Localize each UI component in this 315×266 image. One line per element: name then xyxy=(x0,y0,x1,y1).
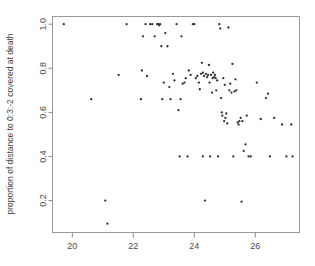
data-point xyxy=(179,155,181,157)
data-point xyxy=(244,143,246,145)
data-point xyxy=(212,72,214,74)
plot-svg: 0.20.40.60.81.0 20222426 proportion of d… xyxy=(0,0,315,266)
data-point xyxy=(185,77,187,79)
data-point xyxy=(231,63,233,65)
data-point xyxy=(196,75,198,77)
data-point xyxy=(140,98,142,100)
data-point xyxy=(281,123,283,125)
data-point xyxy=(154,35,156,37)
data-point xyxy=(222,77,224,79)
plot-frame xyxy=(53,17,300,233)
data-points-layer xyxy=(63,23,294,225)
data-point xyxy=(243,150,245,152)
data-point xyxy=(199,88,201,90)
data-point xyxy=(211,91,213,93)
data-point xyxy=(169,98,171,100)
x-tick-label: 20 xyxy=(67,241,77,251)
data-point xyxy=(118,74,120,76)
data-point xyxy=(209,155,211,157)
data-point xyxy=(214,77,216,79)
data-point xyxy=(241,120,243,122)
x-axis-ticks: 20222426 xyxy=(67,233,260,251)
y-axis-ticks: 0.20.40.60.81.0 xyxy=(38,18,53,207)
data-point xyxy=(207,74,209,76)
y-tick-label: 0.6 xyxy=(38,106,48,119)
data-point xyxy=(189,74,191,76)
data-point xyxy=(195,77,197,79)
data-point xyxy=(290,123,292,125)
data-point xyxy=(201,62,203,64)
data-point xyxy=(125,23,127,25)
data-point xyxy=(217,155,219,157)
y-axis-title: proportion of distance to 0:3:-2 covered… xyxy=(5,33,15,214)
data-point xyxy=(146,75,148,77)
data-point xyxy=(219,27,221,29)
data-point xyxy=(228,89,230,91)
data-point xyxy=(106,223,108,225)
data-point xyxy=(215,89,217,91)
data-point xyxy=(273,117,275,119)
data-point xyxy=(224,117,226,119)
data-point xyxy=(90,98,92,100)
data-point xyxy=(164,32,166,34)
data-point xyxy=(141,69,143,71)
data-point xyxy=(256,81,258,83)
data-point xyxy=(250,155,252,157)
data-point xyxy=(175,23,177,25)
data-point xyxy=(221,115,223,117)
data-point xyxy=(160,45,162,47)
data-point xyxy=(173,79,175,81)
data-point xyxy=(221,111,223,113)
data-point xyxy=(230,91,232,93)
data-point xyxy=(63,23,65,25)
data-point xyxy=(202,155,204,157)
data-point xyxy=(269,155,271,157)
data-point xyxy=(267,92,269,94)
data-point xyxy=(179,98,181,100)
data-point xyxy=(144,23,146,25)
data-point xyxy=(260,118,262,120)
scatter-plot-figure: 0.20.40.60.81.0 20222426 proportion of d… xyxy=(0,0,315,266)
data-point xyxy=(177,109,179,111)
data-point xyxy=(166,45,168,47)
data-point xyxy=(163,81,165,83)
data-point xyxy=(224,84,226,86)
data-point xyxy=(205,73,207,75)
data-point xyxy=(151,23,153,25)
data-point xyxy=(198,81,200,83)
data-point xyxy=(204,199,206,201)
data-point xyxy=(203,75,205,77)
data-point xyxy=(206,76,208,78)
data-point xyxy=(193,23,195,25)
data-point xyxy=(247,155,249,157)
data-point xyxy=(235,89,237,91)
data-point xyxy=(168,86,170,88)
data-point xyxy=(208,64,210,66)
data-point xyxy=(240,117,242,119)
data-point xyxy=(186,155,188,157)
data-point xyxy=(223,120,225,122)
x-tick-label: 24 xyxy=(189,241,199,251)
data-point xyxy=(285,155,287,157)
data-point xyxy=(208,81,210,83)
data-point xyxy=(180,35,182,37)
data-point xyxy=(238,120,240,122)
y-tick-label: 1.0 xyxy=(38,18,48,31)
data-point xyxy=(220,97,222,99)
data-point xyxy=(225,112,227,114)
data-point xyxy=(210,74,212,76)
data-point xyxy=(237,123,239,125)
x-tick-label: 22 xyxy=(128,241,138,251)
data-point xyxy=(265,97,267,99)
data-point xyxy=(218,23,220,25)
y-tick-label: 0.4 xyxy=(38,150,48,163)
data-point xyxy=(216,79,218,81)
data-point xyxy=(240,200,242,202)
data-point xyxy=(229,83,231,85)
data-point xyxy=(202,72,204,74)
data-point xyxy=(188,69,190,71)
data-point xyxy=(149,23,151,25)
y-tick-label: 0.8 xyxy=(38,62,48,75)
x-tick-label: 26 xyxy=(250,241,260,251)
data-point xyxy=(183,81,185,83)
